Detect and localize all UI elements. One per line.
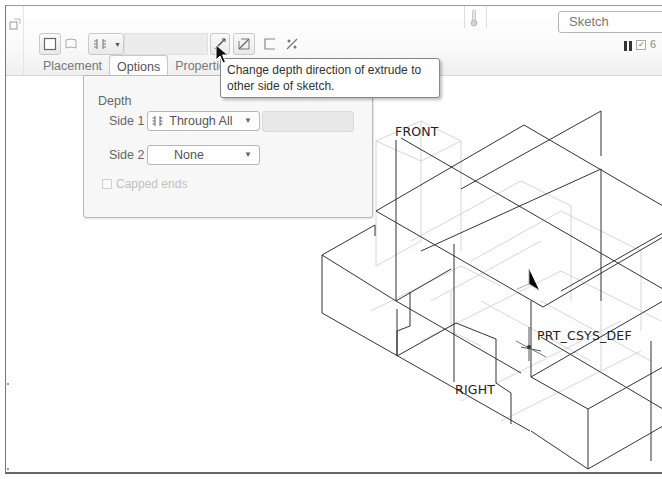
thermometer-icon (469, 9, 479, 27)
chevron-down-icon: ▼ (244, 146, 252, 164)
dashboard-side-strip (6, 6, 24, 76)
separator (464, 6, 465, 28)
remove-material-button[interactable] (233, 33, 255, 55)
scroll-marker (7, 468, 9, 470)
side2-depth-dropdown[interactable]: None ▼ (147, 145, 260, 165)
thicken-sketch-icon (263, 37, 277, 51)
through-all-icon (152, 115, 166, 127)
side1-depth-value-field (262, 111, 354, 132)
through-all-depth-icon (93, 37, 113, 51)
dashboard-tabs: Placement Options Properties (36, 55, 239, 77)
depth-type-dropdown[interactable]: ▼ (88, 33, 124, 55)
side2-label: Side 2 (109, 148, 144, 162)
preview-checkbox[interactable]: ✓ (636, 40, 646, 50)
preview-mode-icon[interactable]: 6 (650, 38, 656, 50)
solid-body-icon (43, 37, 57, 51)
side2-value: None (174, 148, 204, 162)
right-datum-label[interactable]: RIGHT (455, 382, 495, 397)
taper-button[interactable] (284, 36, 300, 52)
taper-icon (285, 37, 299, 51)
chevron-down-icon: ▼ (114, 41, 121, 48)
pause-icon[interactable] (624, 41, 632, 51)
csys-label[interactable]: PRT_CSYS_DEF (537, 328, 632, 343)
window-restore-icon[interactable] (9, 18, 21, 30)
thicken-sketch-button[interactable] (262, 36, 278, 52)
tab-placement[interactable]: Placement (36, 55, 109, 77)
tooltip: Change depth direction of extrude to oth… (220, 58, 440, 98)
side1-depth-dropdown[interactable]: Through All ▼ (147, 111, 260, 131)
tab-options[interactable]: Options (109, 55, 168, 77)
side1-label: Side 1 (109, 114, 144, 128)
surface-icon (64, 37, 78, 51)
app-window: FRONT RIGHT PRT_CSYS_DEF (5, 5, 662, 474)
front-datum-label[interactable]: FRONT (395, 124, 439, 139)
remove-material-icon (236, 36, 252, 52)
separator (486, 6, 487, 28)
side1-value: Through All (169, 114, 232, 128)
checkbox-box (102, 179, 112, 189)
mouse-cursor-icon (215, 44, 231, 66)
chevron-down-icon: ▼ (244, 112, 252, 130)
solid-button[interactable] (39, 33, 61, 55)
capped-ends-checkbox: Capped ends (102, 177, 187, 191)
capped-ends-label: Capped ends (116, 177, 187, 191)
scroll-marker (7, 383, 9, 385)
sketch-reference-box[interactable]: Sketch (558, 11, 662, 33)
surface-button[interactable] (63, 36, 79, 52)
depth-value-field[interactable] (124, 33, 208, 55)
depth-section-title: Depth (98, 94, 131, 108)
